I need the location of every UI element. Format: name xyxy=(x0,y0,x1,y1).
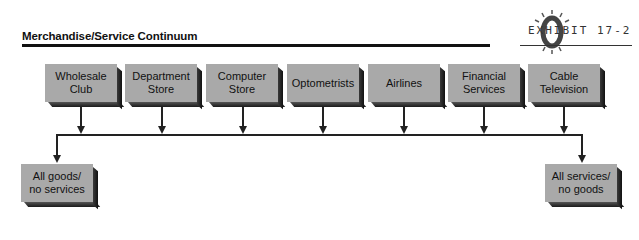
box-label: Optometrists xyxy=(292,77,354,90)
connector xyxy=(322,107,324,127)
box-department-store: DepartmentStore xyxy=(125,64,197,102)
connector xyxy=(563,107,565,127)
arrow-head-icon xyxy=(560,126,568,134)
connector xyxy=(161,107,163,127)
connector xyxy=(242,107,244,127)
box-optometrists: Optometrists xyxy=(287,64,359,102)
arrow-head-icon xyxy=(158,126,166,134)
box-financial-services: FinancialServices xyxy=(448,64,520,102)
connector xyxy=(56,134,58,156)
box-label: FinancialServices xyxy=(462,70,506,96)
box-label: All goods/no services xyxy=(29,170,85,196)
box-label: DepartmentStore xyxy=(132,70,189,96)
arrow-head-icon xyxy=(239,126,247,134)
arrow-head-icon xyxy=(400,126,408,134)
arrow-head-icon xyxy=(53,155,61,163)
box-label: WholesaleClub xyxy=(55,70,106,96)
title-rule xyxy=(22,44,490,47)
box-label: CableTelevision xyxy=(540,70,588,96)
arrow-head-icon xyxy=(319,126,327,134)
arrow-head-icon xyxy=(480,126,488,134)
box-cable-television: CableTelevision xyxy=(528,64,600,102)
connector xyxy=(581,134,583,156)
exhibit-rule xyxy=(520,45,632,46)
box-label: ComputerStore xyxy=(218,70,266,96)
connector xyxy=(80,107,82,127)
page-title: Merchandise/Service Continuum xyxy=(22,30,197,42)
box-wholesale-club: WholesaleClub xyxy=(45,64,117,102)
exhibit-label: EXHIBIT 17-2 xyxy=(528,24,631,37)
endpoint-all-goods: All goods/no services xyxy=(21,164,93,202)
box-computer-store: ComputerStore xyxy=(206,64,278,102)
arrow-head-icon xyxy=(77,126,85,134)
box-label: All services/no goods xyxy=(552,170,611,196)
connector xyxy=(403,107,405,127)
box-airlines: Airlines xyxy=(368,64,440,102)
connector xyxy=(483,107,485,127)
continuum-line xyxy=(56,134,583,136)
endpoint-all-services: All services/no goods xyxy=(545,164,617,202)
arrow-head-icon xyxy=(578,155,586,163)
box-label: Airlines xyxy=(386,77,422,90)
